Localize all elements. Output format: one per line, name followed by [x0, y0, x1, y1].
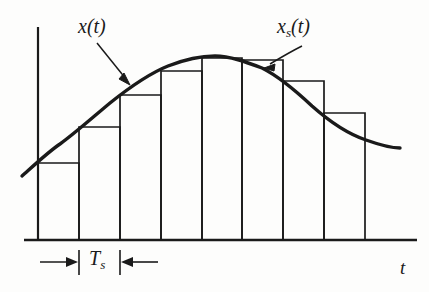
- xst-base: x: [277, 15, 286, 37]
- signal-label-xst: xs(t): [277, 16, 310, 39]
- hold-bars-group: [38, 58, 365, 240]
- hold-bar: [161, 71, 202, 240]
- hold-bar: [79, 127, 120, 240]
- hold-bar: [324, 113, 365, 240]
- signal-label-xt: x(t): [78, 16, 106, 36]
- ts-subscript: s: [100, 257, 105, 272]
- time-axis-label: t: [400, 258, 405, 277]
- hold-bar: [242, 60, 283, 240]
- hold-bar: [38, 163, 79, 240]
- xst-arg: (t): [291, 15, 310, 37]
- xt-leader-arrow: [97, 43, 130, 85]
- hold-bar: [202, 58, 242, 240]
- interval-arrowhead-left: [66, 257, 78, 267]
- hold-bar: [283, 81, 324, 240]
- ts-base: T: [89, 247, 100, 269]
- sampling-period-label: Ts: [89, 248, 105, 271]
- interval-arrowhead-right: [121, 257, 133, 267]
- figure-container: x(t) xs(t) Ts t: [0, 0, 429, 292]
- sampling-plot-svg: [0, 0, 429, 292]
- hold-bar: [120, 95, 161, 240]
